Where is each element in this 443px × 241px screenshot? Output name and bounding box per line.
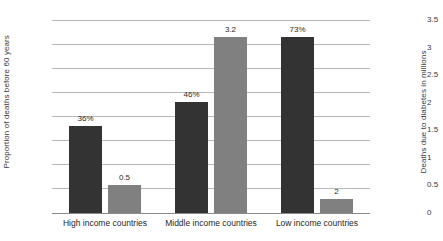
y-axis-tick-right: 2.5 [427,71,443,79]
bar-value-label: 73% [273,26,322,34]
bar [175,102,208,213]
bar-value-label: 0.5 [100,174,149,182]
plot-area: 0%10%20%30%40%50%60%70%80%00.511.522.533… [52,20,370,213]
y-axis-tick-right: 3 [427,44,443,52]
bar-value-label: 36% [61,115,110,123]
gridline [52,44,370,45]
gridline [52,68,370,69]
bar-value-label: 3.2 [206,26,255,34]
gridline [52,20,370,21]
y-axis-tick-right: 2 [427,99,443,107]
bar [281,37,314,213]
y-axis-tick-right: 1 [427,154,443,162]
bar-value-label: 2 [312,188,361,196]
y-axis-tick-right: 0.5 [427,181,443,189]
bar [69,126,102,213]
bar-value-label: 46% [167,91,216,99]
y-axis-tick-right: 0 [427,209,443,217]
bar [108,185,141,213]
x-axis-category-label: Low income countries [264,218,370,228]
y-axis-title-left: Proportion of deaths before 60 years [2,69,11,169]
y-axis-tick-right: 3.5 [427,16,443,24]
bar [320,199,353,213]
x-axis-category-label: Middle income countries [158,218,264,228]
x-axis-category-label: High income countries [52,218,158,228]
y-axis-tick-right: 1.5 [427,126,443,134]
bar [214,37,247,213]
